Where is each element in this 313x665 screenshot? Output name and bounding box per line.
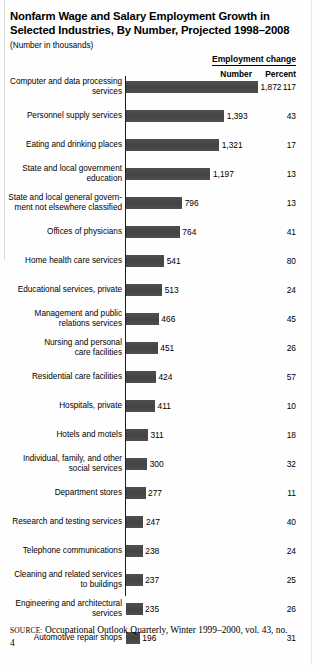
employment-change-header: Employment change: [212, 54, 296, 66]
chart-row: Telephone communications23824: [0, 536, 313, 565]
bar-value-label: 277: [146, 488, 162, 498]
chart-row: Research and testing services24740: [0, 507, 313, 536]
bar: [126, 110, 224, 122]
bar-value-label: 238: [143, 546, 159, 556]
bar-value-label: 300: [147, 459, 163, 469]
percent-value-label: 25: [287, 575, 296, 585]
percent-value-label: 80: [287, 256, 296, 266]
percent-value-label: 43: [287, 111, 296, 121]
category-label: Hospitals, private: [4, 400, 122, 410]
bar: [126, 81, 258, 93]
chart-row: Individual, family, and other social ser…: [0, 449, 313, 478]
category-label: Hotels and motels: [4, 429, 122, 439]
category-label: Engineering and architectural services: [4, 598, 122, 618]
chart-row: State and local government education1,19…: [0, 159, 313, 188]
bar-value-label: 1,321: [219, 140, 242, 150]
bar: [126, 342, 158, 354]
bar: [126, 574, 143, 586]
bar-value-label: 311: [148, 430, 164, 440]
bar: [126, 226, 180, 238]
chart-row: Eating and drinking places1,32117: [0, 130, 313, 159]
bar-value-label: 466: [159, 314, 175, 324]
percent-value-label: 13: [287, 198, 296, 208]
category-label: Nursing and personal care facilities: [4, 337, 122, 357]
chart-row: Educational services, private51324: [0, 275, 313, 304]
percent-value-label: 26: [287, 604, 296, 614]
bar-value-label: 247: [143, 517, 159, 527]
bar-value-label: 1,872: [258, 82, 281, 92]
category-label: Eating and drinking places: [4, 139, 122, 149]
bar: [126, 487, 146, 499]
percent-value-label: 17: [287, 140, 296, 150]
bar-value-label: 796: [182, 198, 198, 208]
bar: [126, 429, 148, 441]
percent-value-label: 117: [283, 82, 296, 92]
percent-value-label: 57: [287, 372, 296, 382]
percent-value-label: 32: [287, 459, 296, 469]
bar-value-label: 513: [162, 285, 178, 295]
category-label: State and local general govern- ment not…: [4, 192, 122, 212]
chart-row: Home health care services54180: [0, 246, 313, 275]
source-kicker: SOURCE:: [10, 626, 43, 635]
bar-value-label: 237: [143, 575, 159, 585]
category-label: Computer and data processing services: [4, 76, 122, 96]
chart-row: State and local general govern- ment not…: [0, 188, 313, 217]
chart-row: Offices of physicians76441: [0, 217, 313, 246]
category-label: Individual, family, and other social ser…: [4, 453, 122, 473]
source-note: SOURCE: Occupational Outlook Quarterly, …: [10, 624, 290, 649]
bar: [126, 284, 162, 296]
category-label: Cleaning and related services to buildin…: [4, 569, 122, 589]
bar: [126, 313, 159, 325]
category-label: Offices of physicians: [4, 226, 122, 236]
percent-value-label: 18: [287, 430, 296, 440]
bar: [126, 168, 210, 180]
bar-value-label: 411: [155, 401, 171, 411]
bar: [126, 516, 143, 528]
chart-page: Nonfarm Wage and Salary Employment Growt…: [0, 0, 313, 665]
percent-value-label: 13: [287, 169, 296, 179]
chart-row: Hospitals, private41110: [0, 391, 313, 420]
percent-value-label: 26: [287, 343, 296, 353]
source-text: Occupational Outlook Quarterly, Winter 1…: [10, 625, 288, 648]
category-label: Educational services, private: [4, 284, 122, 294]
chart-row: Nursing and personal care facilities4512…: [0, 333, 313, 362]
chart-row: Personnel supply services1,39343: [0, 101, 313, 130]
category-label: Residential care facilities: [4, 371, 122, 381]
chart-row: Management and public relations services…: [0, 304, 313, 333]
bar: [126, 603, 143, 615]
bar: [126, 458, 147, 470]
chart-title: Nonfarm Wage and Salary Employment Growt…: [10, 9, 300, 37]
bar-value-label: 451: [158, 343, 174, 353]
bar-value-label: 424: [156, 372, 172, 382]
percent-value-label: 45: [287, 314, 296, 324]
bar-value-label: 235: [143, 604, 159, 614]
category-label: Personnel supply services: [4, 110, 122, 120]
percent-value-label: 10: [287, 401, 296, 411]
bar-value-label: 541: [164, 256, 180, 266]
chart-row: Residential care facilities42457: [0, 362, 313, 391]
bar-value-label: 1,393: [224, 111, 247, 121]
bar-chart-plot: Computer and data processing services1,8…: [0, 76, 313, 604]
chart-row: Computer and data processing services1,8…: [0, 72, 313, 101]
percent-value-label: 24: [287, 285, 296, 295]
percent-value-label: 40: [287, 517, 296, 527]
category-label: State and local government education: [4, 163, 122, 183]
category-label: Telephone communications: [4, 545, 122, 555]
bar: [126, 371, 156, 383]
category-label: Management and public relations services: [4, 308, 122, 328]
chart-row: Department stores27711: [0, 478, 313, 507]
bar: [126, 255, 164, 267]
percent-value-label: 41: [287, 227, 296, 237]
percent-value-label: 24: [287, 546, 296, 556]
category-label: Research and testing services: [4, 516, 122, 526]
bar: [126, 545, 143, 557]
bar-value-label: 1,197: [210, 169, 233, 179]
chart-row: Hotels and motels31118: [0, 420, 313, 449]
bar-value-label: 764: [180, 227, 196, 237]
chart-header: Nonfarm Wage and Salary Employment Growt…: [10, 9, 300, 51]
bar: [126, 197, 182, 209]
chart-row: Engineering and architectural services23…: [0, 594, 313, 623]
chart-row: Cleaning and related services to buildin…: [0, 565, 313, 594]
percent-value-label: 11: [287, 488, 296, 498]
bar: [126, 400, 155, 412]
